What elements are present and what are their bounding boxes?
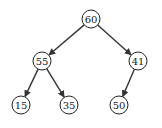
edge-60-to-41 [98,25,131,55]
tree-node-41: 41 [129,52,147,70]
edge-55-to-15 [25,69,38,96]
tree-node-35: 35 [60,96,78,114]
edge-41-to-50 [123,69,135,96]
node-label: 60 [85,14,98,25]
binary-tree-diagram: 605541153550 [0,0,162,128]
tree-node-55: 55 [33,52,51,70]
nodes-group: 605541153550 [12,10,147,114]
tree-node-15: 15 [12,96,30,114]
tree-node-50: 50 [110,96,128,114]
node-label: 41 [132,56,145,67]
node-label: 35 [63,100,76,111]
edge-55-to-35 [47,69,64,97]
edge-60-to-55 [49,25,84,55]
tree-node-60: 60 [82,10,100,28]
node-label: 15 [15,100,28,111]
node-label: 50 [113,100,126,111]
node-label: 55 [36,56,49,67]
